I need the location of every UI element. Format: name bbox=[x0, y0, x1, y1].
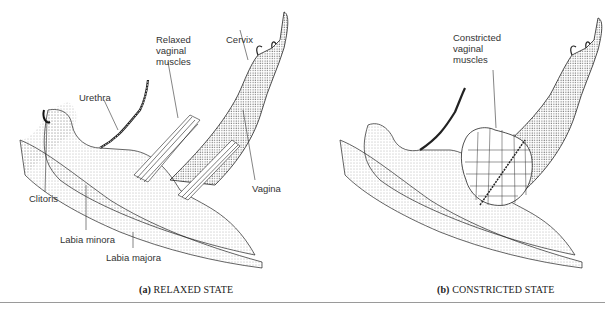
caption-b-letter: (b) bbox=[437, 284, 450, 295]
caption-a-letter: (a) bbox=[139, 284, 151, 295]
caption-a: (a) RELAXED STATE bbox=[139, 284, 233, 295]
caption-a-text: RELAXED STATE bbox=[154, 284, 234, 295]
label-vagina: Vagina bbox=[252, 183, 281, 194]
label-relaxed-vaginal-muscles: Relaxed vaginal muscles bbox=[156, 34, 191, 67]
caption-b-text: CONSTRICTED STATE bbox=[452, 284, 554, 295]
label-cervix: Cervix bbox=[226, 34, 253, 45]
label-clitoris: Clitoris bbox=[29, 193, 58, 204]
bottom-rule-divider bbox=[0, 302, 605, 303]
caption-b: (b) CONSTRICTED STATE bbox=[437, 284, 554, 295]
panel-a-drawing bbox=[20, 12, 288, 268]
label-labia-minora: Labia minora bbox=[60, 234, 115, 245]
label-labia-majora: Labia majora bbox=[106, 252, 161, 263]
anatomy-illustration bbox=[0, 0, 605, 314]
label-urethra: Urethra bbox=[79, 92, 111, 103]
label-constricted-vaginal-muscles: Constricted vaginal muscles bbox=[453, 32, 501, 65]
